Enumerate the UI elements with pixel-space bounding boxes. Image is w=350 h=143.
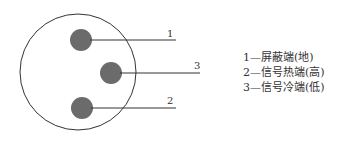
legend-item-1: 1—屏蔽端(地) xyxy=(243,50,325,65)
pin-1 xyxy=(70,29,92,51)
pin-label-1: 1 xyxy=(167,28,173,39)
pin-legend: 1—屏蔽端(地) 2—信号热端(高) 3—信号冷端(低) xyxy=(243,50,325,95)
pin-2 xyxy=(71,97,93,119)
pin-label-2: 2 xyxy=(167,95,173,106)
pin-label-3: 3 xyxy=(194,60,200,71)
pin-3 xyxy=(100,62,122,84)
legend-item-2: 2—信号热端(高) xyxy=(243,65,325,80)
legend-item-3: 3—信号冷端(低) xyxy=(243,80,325,95)
